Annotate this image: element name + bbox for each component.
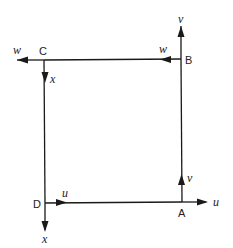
arrow-down-icon — [42, 221, 49, 232]
edge-label-x: x — [49, 72, 56, 86]
arrow-right-icon — [197, 199, 208, 206]
ext-label-x: x — [41, 232, 48, 246]
arrow-left-icon — [17, 57, 28, 64]
vector-square-diagram: C B D A x w u v v w x u — [0, 0, 233, 248]
corner-label-d: D — [33, 198, 41, 210]
arrow-up-icon — [178, 174, 185, 185]
arrow-down-icon — [42, 72, 49, 83]
arrow-right-icon — [56, 199, 67, 206]
arrow-up-icon — [178, 26, 185, 37]
corner-label-c: C — [39, 45, 47, 57]
ext-label-w: w — [13, 43, 21, 57]
edge-label-v: v — [187, 171, 193, 185]
ext-label-v: v — [178, 12, 184, 26]
arrow-left-icon — [160, 56, 171, 63]
edge-label-w: w — [159, 42, 167, 56]
ext-label-u: u — [213, 195, 219, 209]
edge-label-u: u — [62, 186, 68, 200]
corner-label-b: B — [185, 54, 192, 66]
corner-label-a: A — [178, 207, 186, 219]
